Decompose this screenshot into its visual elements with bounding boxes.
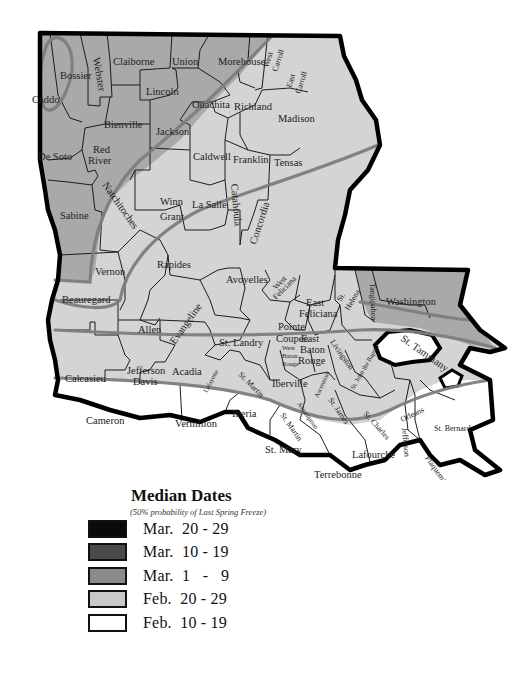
label-beauregard: Beauregard xyxy=(62,294,111,305)
label-tensas: Tensas xyxy=(274,157,302,168)
label-avoyelles: Avoyelles xyxy=(226,274,268,285)
legend-label: Feb. 20 - 29 xyxy=(143,590,227,608)
label-desoto: De Soto xyxy=(38,151,72,162)
label-winn: Winn xyxy=(160,196,184,207)
label-claiborne: Claiborne xyxy=(113,56,155,67)
label-red-river-2: River xyxy=(88,155,112,166)
label-jeff-davis-1: Jefferson xyxy=(127,365,166,376)
label-st-bernard: St. Bernard xyxy=(434,424,470,433)
legend-label: Feb. 10 - 19 xyxy=(143,614,227,632)
legend-swatch xyxy=(88,520,127,538)
label-wbr-2: Baton xyxy=(282,352,298,359)
label-bienville: Bienville xyxy=(104,119,143,130)
label-calcasieu: Calcasieu xyxy=(65,373,107,384)
legend-item: Feb. 10 - 19 xyxy=(88,611,348,635)
legend: Median Dates (50% probability of Last Sp… xyxy=(88,486,348,635)
label-iberia: Iberia xyxy=(232,408,257,419)
legend-subtitle: (50% probability of Last Spring Freeze) xyxy=(130,507,348,517)
legend-label: Mar. 10 - 19 xyxy=(143,543,229,561)
legend-label: Mar. 1 - 9 xyxy=(143,567,229,585)
label-washington: Washington xyxy=(386,296,437,307)
label-union: Union xyxy=(172,56,199,67)
legend-label: Mar. 20 - 29 xyxy=(143,520,229,538)
louisiana-freeze-map: Caddo Bossier Webster Claiborne Union Mo… xyxy=(0,0,529,480)
legend-item: Feb. 20 - 29 xyxy=(88,588,348,612)
label-vernon: Vernon xyxy=(95,266,126,277)
label-franklin: Franklin xyxy=(233,154,269,165)
label-ebr-2: Baton xyxy=(300,344,326,355)
label-richland: Richland xyxy=(234,101,273,112)
legend-swatch xyxy=(88,590,127,608)
label-morehouse: Morehouse xyxy=(218,56,266,67)
label-caldwell: Caldwell xyxy=(193,151,231,162)
label-ebr-3: Rouge xyxy=(298,355,326,366)
label-pointe-coupee-1: Pointe xyxy=(278,321,305,332)
label-ebr-1: East xyxy=(301,333,319,344)
legend-swatch xyxy=(88,567,127,585)
label-ouachita: Ouachita xyxy=(192,99,230,110)
label-sabine: Sabine xyxy=(60,210,89,221)
label-wbr-1: West xyxy=(282,344,295,351)
label-jackson: Jackson xyxy=(156,126,190,137)
label-jeff-davis-2: Davis xyxy=(133,376,158,387)
label-bossier: Bossier xyxy=(60,70,92,81)
legend-swatch xyxy=(88,543,127,561)
label-lafourche: Lafourche xyxy=(352,449,395,460)
legend-item: Mar. 20 - 29 xyxy=(88,517,348,541)
label-caddo: Caddo xyxy=(32,94,59,105)
label-madison: Madison xyxy=(278,113,316,124)
legend-title: Median Dates xyxy=(131,486,348,506)
label-east-feliciana-1: East xyxy=(306,297,324,308)
label-lasalle: La Salle xyxy=(192,199,227,210)
label-jefferson: Jefferson xyxy=(400,427,412,457)
label-cameron: Cameron xyxy=(86,415,125,426)
legend-item: Mar. 1 - 9 xyxy=(88,564,348,588)
legend-item: Mar. 10 - 19 xyxy=(88,541,348,565)
label-iberville: Iberville xyxy=(272,378,308,389)
label-wbr-3: Rouge xyxy=(282,360,299,367)
label-lincoln: Lincoln xyxy=(146,86,179,97)
label-st-mary: St. Mary xyxy=(265,444,303,455)
label-grant: Grant xyxy=(160,211,184,222)
label-st-landry: St. Landry xyxy=(219,337,264,348)
label-red-river-1: Red xyxy=(93,144,111,155)
label-allen: Allen xyxy=(138,324,162,335)
label-terrebonne: Terrebonne xyxy=(314,469,362,480)
label-tangipahoa: Tangipahoa xyxy=(368,283,378,321)
label-acadia: Acadia xyxy=(172,366,202,377)
legend-swatch xyxy=(88,614,127,632)
label-rapides: Rapides xyxy=(157,259,191,270)
label-vermilion: Vermilion xyxy=(175,418,218,429)
label-east-feliciana-2: Feliciana xyxy=(299,308,338,319)
